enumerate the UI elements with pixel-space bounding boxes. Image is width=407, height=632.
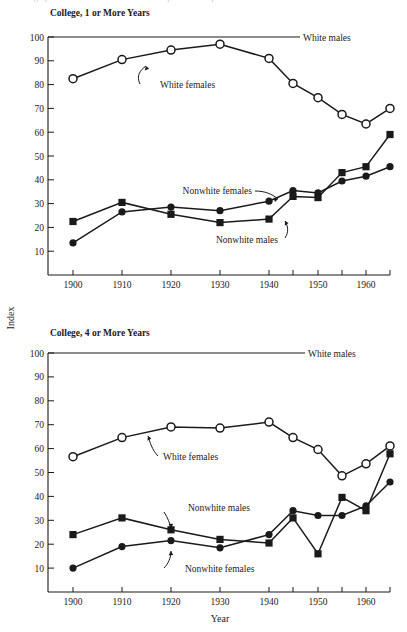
y-tick-label: 40	[35, 492, 45, 502]
y-tick-label: 30	[35, 516, 45, 526]
y-tick-label: 50	[35, 152, 45, 162]
series-label-white-females-top: White females	[160, 80, 215, 90]
series-label-white-males-bottom: White males	[308, 349, 356, 359]
x-tick-label: 1940	[260, 597, 279, 607]
series-markers-nonwhite-females-bottom	[69, 478, 393, 571]
callout-arrow-nonwhite-females-bottom	[169, 551, 174, 555]
y-tick-label: 100	[30, 349, 45, 359]
y-tick-label: 40	[35, 175, 45, 185]
panel-title-bottom: College, 4 or More Years	[50, 328, 150, 338]
x-tick-label: 1910	[113, 280, 132, 290]
series-markers-white-females-top	[69, 40, 394, 128]
x-tick-label: 1960	[357, 597, 376, 607]
y-tick-label: 80	[35, 80, 45, 90]
y-tick-label: 50	[35, 468, 45, 478]
series-label-white-males-top: White males	[303, 33, 351, 43]
y-tick-label: 10	[35, 564, 45, 574]
x-tick-labels-top: 1900 1910 1920 1930 1940 1950 1960	[64, 280, 376, 290]
x-tick-label: 1930	[211, 280, 230, 290]
x-tick-label: 1960	[357, 280, 376, 290]
y-tick-label: 10	[35, 247, 45, 257]
x-tick-label: 1900	[64, 597, 83, 607]
series-line-white-females-bottom	[73, 422, 390, 476]
y-tick-label: 90	[35, 56, 45, 66]
callout-leader-nonwhite-females-top	[255, 191, 278, 199]
x-tick-label: 1930	[211, 597, 230, 607]
x-tick-labels-bottom: 1900 1910 1920 1930 1940 1950 1960	[64, 597, 376, 607]
callout-leader-white-females-top	[138, 66, 146, 84]
y-axis-label: Index	[5, 307, 16, 330]
y-tick-label: 20	[35, 540, 45, 550]
y-tick-label: 70	[35, 420, 45, 430]
x-tick-label: 1920	[162, 597, 181, 607]
y-tick-label: 90	[35, 372, 45, 382]
y-tick-labels-bottom: 100 90 80 70 60 50 40 30 20 10	[30, 349, 45, 574]
figure-root: Index College, 1 or More Years	[0, 0, 407, 632]
y-tick-label: 80	[35, 396, 45, 406]
series-markers-nonwhite-males-top	[69, 131, 393, 226]
series-label-white-females-bottom: White females	[163, 452, 218, 462]
panel-title-top: College, 1 or More Years	[50, 8, 150, 18]
series-label-nonwhite-males-bottom: Nonwhite males	[188, 503, 250, 513]
chart-college-4-or-more-years: College, 4 or More Years	[30, 328, 394, 624]
y-tick-labels-top: 100 90 80 70 60 50 40 30 20 10	[30, 33, 45, 257]
x-tick-label: 1910	[113, 597, 132, 607]
series-label-nonwhite-females-bottom: Nonwhite females	[185, 564, 255, 574]
chart-college-1-or-more-years: College, 1 or More Years	[30, 8, 394, 290]
x-axis-label: Year	[211, 613, 230, 624]
y-tick-label: 70	[35, 104, 45, 114]
y-tick-label: 60	[35, 128, 45, 138]
x-tick-label: 1950	[309, 597, 328, 607]
x-tick-label: 1900	[64, 280, 83, 290]
y-tick-label: 30	[35, 199, 45, 209]
y-tick-label: 100	[30, 33, 45, 43]
x-tick-label: 1940	[260, 280, 279, 290]
series-label-nonwhite-females-top: Nonwhite females	[183, 186, 253, 196]
y-tick-label: 20	[35, 223, 45, 233]
series-label-nonwhite-males-top: Nonwhite males	[216, 235, 278, 245]
x-tick-label: 1950	[309, 280, 328, 290]
x-tick-label: 1920	[162, 280, 181, 290]
y-tick-label: 60	[35, 444, 45, 454]
